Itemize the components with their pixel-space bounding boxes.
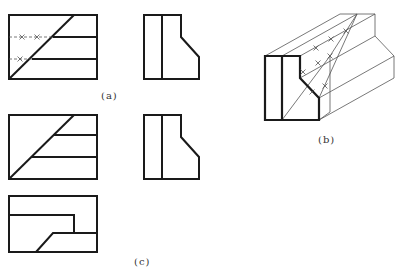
- outline-rect: [9, 115, 97, 179]
- iso-edge-line: [375, 36, 394, 56]
- figure-b-isometric-view: [265, 14, 394, 120]
- caption-a: (a): [101, 90, 118, 101]
- iso-edge-line: [282, 14, 357, 56]
- iso-edge-line: [319, 112, 330, 120]
- front-face-outline: [265, 56, 319, 120]
- figure-a-side-view: [144, 15, 199, 79]
- figure-c-top-view: [9, 196, 97, 252]
- side-outline: [144, 15, 199, 79]
- figure-a-front-view: [9, 15, 97, 79]
- iso-edge-line: [330, 14, 357, 56]
- edge-line: [9, 15, 74, 79]
- edge-polyline: [9, 215, 74, 233]
- edge-polyline: [36, 233, 97, 252]
- drawing-canvas: [0, 0, 402, 274]
- outline-rect: [9, 15, 97, 79]
- caption-b: (b): [318, 134, 335, 145]
- cross-mark-icon: [316, 61, 321, 66]
- outline-rect: [9, 196, 97, 252]
- cross-mark-icon: [301, 70, 306, 75]
- iso-edge-line: [300, 14, 375, 56]
- cross-mark-icon: [329, 37, 334, 42]
- iso-edge-line: [265, 14, 340, 56]
- edge-line: [9, 115, 74, 179]
- figure-c-side-view: [144, 115, 199, 179]
- side-outline: [144, 115, 199, 179]
- caption-c: (c): [134, 256, 150, 267]
- figure-c-front-view: [9, 115, 97, 179]
